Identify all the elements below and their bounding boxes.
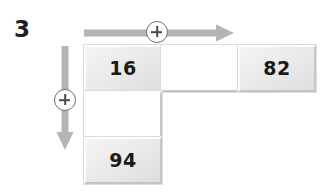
grid-cell-r1c0[interactable] bbox=[84, 91, 162, 138]
grid-cell-r0c0[interactable]: 16 bbox=[84, 45, 162, 92]
grid-row: 94 bbox=[84, 137, 315, 183]
cell-value: 94 bbox=[109, 151, 136, 170]
worksheet-canvas: 3 16 82 94 bbox=[0, 0, 322, 195]
question-number: 3 bbox=[14, 18, 30, 41]
cell-value: 16 bbox=[109, 59, 136, 78]
number-grid: 16 82 94 bbox=[84, 45, 315, 183]
vertical-plus-operator-icon bbox=[54, 89, 76, 111]
grid-row bbox=[84, 91, 315, 137]
grid-row: 16 82 bbox=[84, 45, 315, 91]
grid-cell-r2c0[interactable]: 94 bbox=[84, 137, 162, 184]
grid-cell-r0c2[interactable]: 82 bbox=[238, 45, 316, 92]
grid-cell-r0c1[interactable] bbox=[161, 45, 239, 92]
cell-value: 82 bbox=[263, 59, 290, 78]
horizontal-plus-operator-icon bbox=[146, 21, 168, 43]
